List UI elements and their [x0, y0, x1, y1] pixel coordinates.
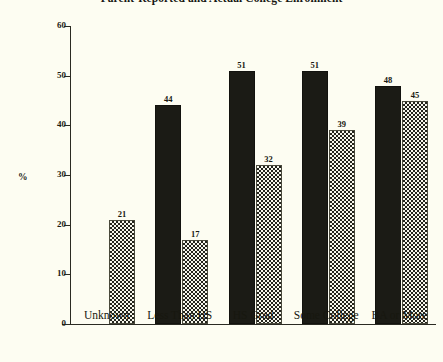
bar-less-than-hs-reported: 44: [155, 105, 181, 324]
bar-value-label: 32: [264, 154, 273, 164]
bar-ba-or-more-reported: 48: [375, 86, 401, 324]
bar-value-label: 44: [164, 94, 173, 104]
x-label-less-than-hs: Less Than HS: [143, 308, 216, 322]
y-axis-title: %: [18, 172, 28, 182]
x-axis-line: [62, 324, 436, 325]
y-axis-line: [70, 26, 71, 324]
chart-title: Parent-Reported and Actual College Enrol…: [0, 0, 443, 4]
bar-some-college-reported: 51: [302, 71, 328, 324]
bar-value-label: 39: [337, 119, 346, 129]
bar-some-college-actual: 39: [329, 130, 355, 324]
bar-hs-grad-actual: 32: [256, 165, 282, 324]
bar-value-label: 21: [118, 209, 127, 219]
y-tick-label: 20: [57, 219, 66, 230]
chart-title-clip: Parent-Reported and Actual College Enrol…: [0, 0, 443, 7]
chart-figure: Parent-Reported and Actual College Enrol…: [0, 0, 443, 362]
y-tick-label: 0: [62, 318, 67, 329]
bar-value-label: 51: [310, 60, 319, 70]
y-tick-label: 60: [57, 20, 66, 31]
bar-value-label: 45: [411, 90, 420, 100]
plot-area: 0102030405060 214417513251394845: [70, 26, 436, 324]
y-tick-label: 10: [57, 268, 66, 279]
y-tick-label: 50: [57, 70, 66, 81]
bar-value-label: 51: [237, 60, 246, 70]
y-tick-label: 30: [57, 169, 66, 180]
x-label-hs-grad: HS Grad: [216, 308, 289, 322]
x-label-some-college: Some College: [290, 308, 363, 322]
bar-value-label: 17: [191, 229, 200, 239]
bar-value-label: 48: [384, 75, 393, 85]
bar-hs-grad-reported: 51: [229, 71, 255, 324]
x-label-unknown: Unknown: [70, 308, 143, 322]
x-label-ba-or-more: BA or More: [363, 308, 436, 322]
bar-ba-or-more-actual: 45: [402, 101, 428, 325]
y-tick-label: 40: [57, 119, 66, 130]
